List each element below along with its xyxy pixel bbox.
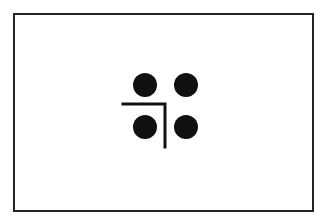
dot-bottom-left [133, 115, 157, 139]
dot-top-right [174, 73, 198, 97]
dot-bottom-right [174, 115, 198, 139]
dot-top-left [133, 73, 157, 97]
four-dot-symbol [0, 0, 332, 224]
